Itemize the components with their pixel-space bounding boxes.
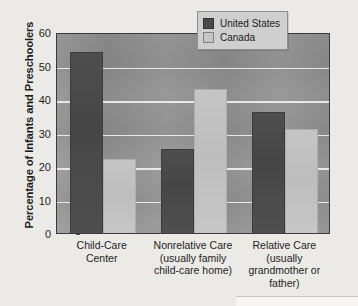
legend-item: United States [203, 17, 280, 30]
y-tick-label: 30 [24, 129, 51, 140]
bar-united-states [161, 149, 194, 233]
bar-chart-figure: Percentage of Infants and Preschoolers 0… [0, 0, 358, 306]
y-tick-label: 20 [24, 162, 51, 173]
x-axis-label-line: grandmother or [227, 264, 342, 277]
plot-area [56, 33, 330, 234]
legend-item: Canada [203, 31, 280, 44]
legend-label: United States [220, 18, 280, 29]
chart-legend: United StatesCanada [197, 11, 288, 50]
y-tick-label: 10 [24, 196, 51, 207]
y-tick-label: 60 [24, 28, 51, 39]
x-axis-label-line: (usually [227, 252, 342, 265]
x-axis-label-line: father) [227, 277, 342, 290]
bar-united-states [252, 112, 285, 233]
plot-inner [57, 34, 329, 233]
legend-label: Canada [220, 32, 255, 43]
y-tick-label: 50 [24, 62, 51, 73]
y-tick-mark [76, 234, 80, 235]
x-axis-label-line: Relative Care [227, 239, 342, 252]
bar-united-states [70, 52, 103, 233]
y-tick-label: 40 [24, 95, 51, 106]
page-bottom-rule [236, 296, 358, 306]
bar-canada [285, 129, 318, 233]
x-axis-label: Relative Care(usuallygrandmother orfathe… [227, 239, 342, 289]
legend-swatch-icon [203, 32, 214, 43]
x-axis-category-labels: Child-CareCenterNonrelative Care(usually… [40, 239, 350, 299]
bar-canada [103, 159, 136, 233]
y-axis-tick-labels: 0102030405060 [24, 25, 51, 241]
bar-canada [194, 89, 227, 233]
legend-swatch-icon [203, 18, 214, 29]
